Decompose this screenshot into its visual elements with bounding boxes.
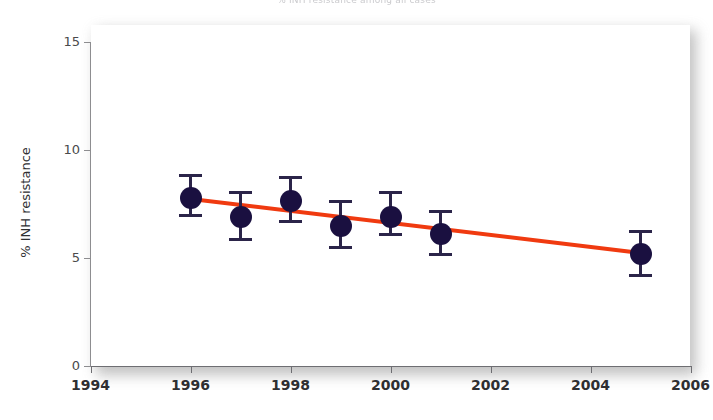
x-tick-mark	[91, 366, 92, 373]
y-tick-mark	[84, 258, 91, 259]
y-tick-mark	[84, 42, 91, 43]
y-tick-label: 0	[36, 358, 80, 373]
chart-title: % INH resistance among all cases	[0, 0, 713, 5]
x-tick-mark	[391, 366, 392, 373]
x-tick-label: 1998	[261, 377, 321, 393]
x-tick-mark	[291, 366, 292, 373]
x-tick-label: 2002	[461, 377, 521, 393]
chart-figure: % INH resistance among all cases % INH r…	[0, 0, 713, 420]
x-tick-mark	[591, 366, 592, 373]
x-tick-label: 2000	[361, 377, 421, 393]
x-tick-label: 2004	[561, 377, 621, 393]
y-tick-label: 15	[36, 34, 80, 49]
x-tick-label: 1996	[161, 377, 221, 393]
x-tick-label: 2006	[661, 377, 713, 393]
plot-panel	[91, 25, 690, 366]
x-tick-mark	[491, 366, 492, 373]
y-tick-label: 5	[36, 250, 80, 265]
y-tick-mark	[84, 150, 91, 151]
x-tick-label: 1994	[61, 377, 121, 393]
y-tick-label: 10	[36, 142, 80, 157]
x-tick-mark	[191, 366, 192, 373]
x-tick-mark	[691, 366, 692, 373]
y-axis-line	[90, 42, 91, 367]
y-axis-title: % INH resistance	[18, 113, 33, 293]
